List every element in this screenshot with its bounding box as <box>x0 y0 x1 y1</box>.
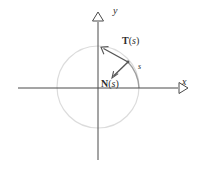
normal-vector-label: N(s) <box>101 79 119 89</box>
diagram-canvas <box>0 0 199 178</box>
figure-container: y x T(s) N(s) s <box>0 0 199 178</box>
arc-length-label: s <box>138 63 141 71</box>
tangent-vector-symbol: T <box>122 35 129 46</box>
y-axis-label: y <box>113 6 117 16</box>
x-axis-label: x <box>182 77 186 87</box>
y-axis-arrowhead-icon <box>93 12 104 21</box>
normal-vector-shaft <box>114 62 129 76</box>
curve-point-marker <box>127 61 130 64</box>
tangent-vector-label: T(s) <box>122 36 139 46</box>
tangent-close-paren: ) <box>136 35 139 46</box>
normal-close-paren: ) <box>115 78 118 89</box>
